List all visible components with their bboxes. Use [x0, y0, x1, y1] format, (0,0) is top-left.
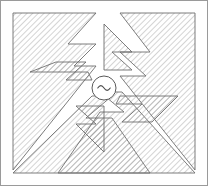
- figure-container: Radial hatched antenna pattern schematic: [0, 0, 208, 186]
- upper-right-chevron-arm: [104, 24, 132, 70]
- schematic-canvas: [0, 0, 208, 186]
